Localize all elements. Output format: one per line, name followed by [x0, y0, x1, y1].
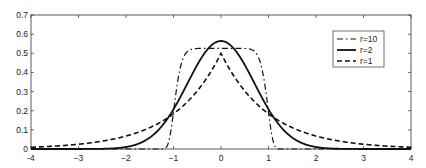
- x-tick-label: −1: [169, 153, 179, 163]
- y-tick-label: 0.7: [16, 10, 28, 20]
- chart: 00.10.20.30.40.50.60.7 -4−3−2−101234 r=1…: [0, 0, 426, 168]
- y-tick-label: 0.5: [16, 48, 28, 58]
- legend-label: r=10: [360, 34, 378, 44]
- y-tick-label: 0.6: [16, 29, 28, 39]
- y-tick-label: 0.3: [16, 87, 28, 97]
- x-tick-label: 1: [266, 153, 271, 163]
- legend-label: r=2: [360, 45, 373, 55]
- x-tick-label: −3: [74, 153, 84, 163]
- legend: r=10r=2r=1: [333, 31, 384, 67]
- x-tick-label: 2: [314, 153, 319, 163]
- x-tick-label: 4: [409, 153, 414, 163]
- legend-label: r=1: [360, 56, 373, 66]
- x-tick-label: -4: [27, 153, 35, 163]
- y-tick-label: 0.2: [16, 106, 28, 116]
- x-tick-label: 3: [361, 153, 366, 163]
- x-tick-label: −2: [121, 153, 131, 163]
- x-tick-label: 0: [219, 153, 224, 163]
- y-tick-label: 0.4: [16, 67, 28, 77]
- y-tick-label: 0.1: [16, 125, 28, 135]
